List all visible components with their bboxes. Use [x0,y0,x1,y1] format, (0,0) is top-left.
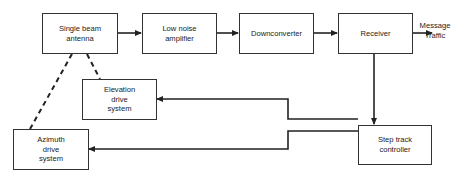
elevation-drive-block: Elevation drive system [82,79,157,120]
elevation-label: Elevation drive system [104,85,135,115]
lna-block: Low noise amplifier [142,13,217,54]
antenna-label: Single beam antenna [59,24,101,44]
dashed-link-azimuth-antenna [30,54,72,129]
arrow-steptrack-elevation [157,99,358,119]
antenna-block: Single beam antenna [42,13,118,54]
azimuth-drive-block: Azimuth drive system [13,129,89,170]
message-traffic-label: Message Traffic [414,21,456,41]
arrow-steptrack-azimuth [89,131,358,149]
receiver-label: Receiver [361,29,391,39]
lna-label: Low noise amplifier [162,24,196,44]
receiver-block: Receiver [338,13,413,54]
step-track-controller-block: Step track controller [358,125,432,165]
downconverter-label: Downconverter [251,29,302,39]
dashed-link-elevation-antenna [87,54,100,79]
steptrack-label: Step track controller [378,135,412,155]
azimuth-label: Azimuth drive system [37,135,64,165]
downconverter-block: Downconverter [239,13,314,54]
